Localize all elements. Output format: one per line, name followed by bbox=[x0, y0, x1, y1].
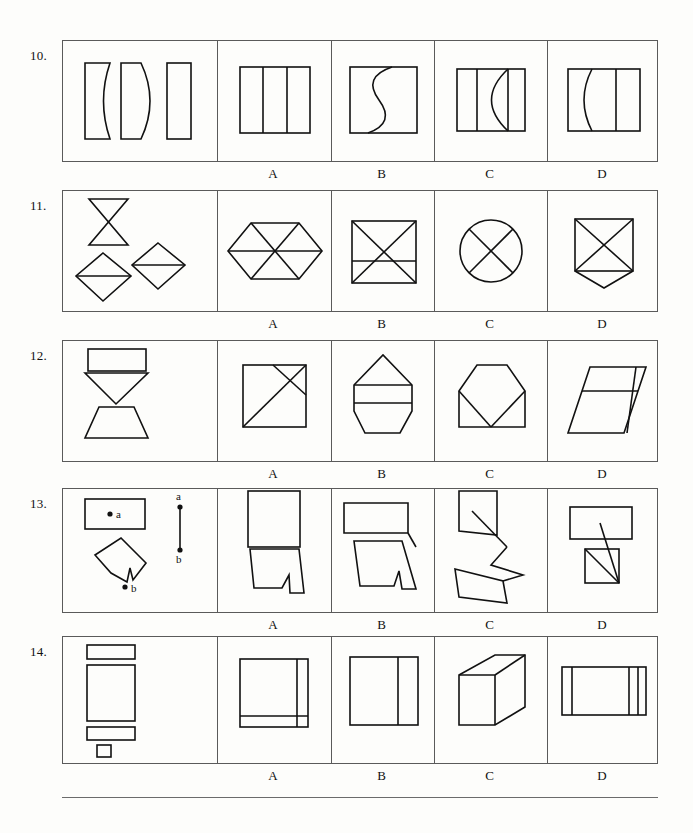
row-10-label-d: D bbox=[546, 166, 658, 182]
row-14-option-d-cell[interactable] bbox=[547, 637, 659, 763]
row-12-option-d-cell[interactable] bbox=[547, 341, 659, 461]
row-13-problem-cell: a b a b bbox=[63, 489, 217, 612]
row-10-label-c: C bbox=[433, 166, 546, 182]
footer-rule bbox=[62, 797, 658, 798]
row-14-label-a: A bbox=[216, 768, 330, 784]
row-14-problem-cell bbox=[63, 637, 217, 763]
row-number-13: 13. bbox=[30, 496, 47, 512]
svg-text:a: a bbox=[176, 490, 181, 502]
row-13-option-labels: A B C D bbox=[62, 617, 658, 635]
row-number-14: 14. bbox=[30, 644, 47, 660]
row-12-label-c: C bbox=[433, 466, 546, 482]
row-12-label-d: D bbox=[546, 466, 658, 482]
row-13-option-a-cell[interactable] bbox=[217, 489, 331, 612]
row-number-12: 12. bbox=[30, 348, 47, 364]
row-13-option-d-cell[interactable] bbox=[547, 489, 659, 612]
row-10-label-b: B bbox=[330, 166, 433, 182]
row-11-option-a-cell[interactable] bbox=[217, 191, 331, 311]
row-12-grid bbox=[62, 340, 658, 462]
row-11-option-d-cell[interactable] bbox=[547, 191, 659, 311]
row-11-option-b-cell[interactable] bbox=[331, 191, 434, 311]
row-10-label-a: A bbox=[216, 166, 330, 182]
row-11-option-c-cell[interactable] bbox=[434, 191, 547, 311]
row-13-label-a: A bbox=[216, 617, 330, 633]
row-14-label-c: C bbox=[433, 768, 546, 784]
row-12-option-labels: A B C D bbox=[62, 466, 658, 484]
row-12-problem-cell bbox=[63, 341, 217, 461]
row-12-option-b-cell[interactable] bbox=[331, 341, 434, 461]
row-14-option-c-cell[interactable] bbox=[434, 637, 547, 763]
row-10-option-b-cell[interactable] bbox=[331, 41, 434, 161]
worksheet-page: 10. bbox=[0, 0, 693, 833]
svg-text:b: b bbox=[176, 553, 182, 565]
row-11-grid bbox=[62, 190, 658, 312]
row-12-label-b: B bbox=[330, 466, 433, 482]
row-13-grid: a b a b bbox=[62, 488, 658, 613]
row-10-problem-cell bbox=[63, 41, 217, 161]
row-number-10: 10. bbox=[30, 48, 47, 64]
row-13-label-d: D bbox=[546, 617, 658, 633]
row-11-label-a: A bbox=[216, 316, 330, 332]
row-14-option-a-cell[interactable] bbox=[217, 637, 331, 763]
row-10-option-a-cell[interactable] bbox=[217, 41, 331, 161]
row-10-grid bbox=[62, 40, 658, 162]
row-13-option-c-cell[interactable] bbox=[434, 489, 547, 612]
row-11-label-b: B bbox=[330, 316, 433, 332]
row-number-11: 11. bbox=[30, 198, 46, 214]
row-12-option-a-cell[interactable] bbox=[217, 341, 331, 461]
row-14-grid bbox=[62, 636, 658, 764]
row-13-option-b-cell[interactable] bbox=[331, 489, 434, 612]
svg-text:a: a bbox=[116, 508, 121, 520]
row-10-option-labels: A B C D bbox=[62, 166, 658, 184]
row-10-option-d-cell[interactable] bbox=[547, 41, 659, 161]
row-14-option-b-cell[interactable] bbox=[331, 637, 434, 763]
row-13-label-c: C bbox=[433, 617, 546, 633]
row-11-problem-cell bbox=[63, 191, 217, 311]
row-12-label-a: A bbox=[216, 466, 330, 482]
row-11-label-c: C bbox=[433, 316, 546, 332]
row-13-label-b: B bbox=[330, 617, 433, 633]
row-11-option-labels: A B C D bbox=[62, 316, 658, 334]
row-12-option-c-cell[interactable] bbox=[434, 341, 547, 461]
row-14-option-labels: A B C D bbox=[62, 768, 658, 786]
row-14-label-d: D bbox=[546, 768, 658, 784]
row-14-label-b: B bbox=[330, 768, 433, 784]
row-10-option-c-cell[interactable] bbox=[434, 41, 547, 161]
row-11-label-d: D bbox=[546, 316, 658, 332]
svg-text:b: b bbox=[131, 582, 137, 594]
